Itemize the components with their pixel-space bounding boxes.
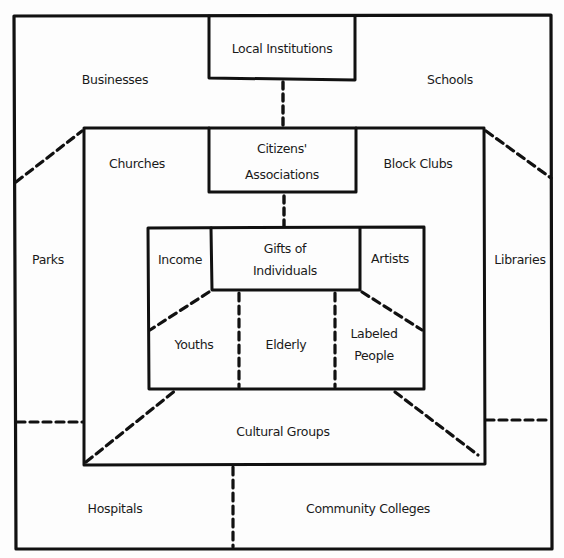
citizens-title-line2: Associations	[245, 167, 319, 182]
region-income: Income	[158, 252, 202, 267]
region-community-colleges: Community Colleges	[306, 501, 430, 516]
region-hospitals: Hospitals	[88, 501, 143, 516]
gifts-title-line1: Gifts of	[264, 241, 306, 256]
region-schools: Schools	[427, 72, 473, 87]
region-parks: Parks	[32, 252, 64, 267]
region-businesses: Businesses	[82, 72, 148, 87]
region-labeled-people-line2: People	[354, 348, 394, 363]
region-churches: Churches	[109, 156, 165, 171]
citizens-box	[209, 128, 356, 192]
region-labeled-people-line1: Labeled	[350, 326, 397, 341]
region-artists: Artists	[371, 251, 409, 266]
gifts-box	[211, 228, 360, 290]
region-block-clubs: Block Clubs	[383, 156, 452, 171]
region-libraries: Libraries	[494, 252, 545, 267]
gifts-title-line2: Individuals	[253, 263, 317, 278]
region-cultural-groups: Cultural Groups	[236, 424, 329, 439]
region-youths: Youths	[174, 337, 213, 352]
community-assets-map: Local Institutions Businesses Schools Pa…	[0, 0, 564, 558]
region-elderly: Elderly	[266, 337, 307, 352]
citizens-title-line1: Citizens'	[257, 141, 307, 156]
local-institutions-title: Local Institutions	[232, 41, 333, 56]
